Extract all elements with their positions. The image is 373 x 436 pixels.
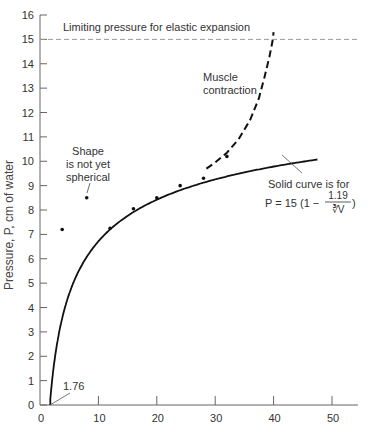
data-point <box>225 155 229 159</box>
muscle-contraction-curve <box>206 32 273 169</box>
start-value-annotation: 1.76 <box>63 380 84 392</box>
shape-annotation-line3: spherical <box>66 171 110 183</box>
data-point <box>108 226 112 230</box>
y-tick-label: 15 <box>22 33 34 45</box>
y-tick-label: 5 <box>28 277 34 289</box>
muscle-annotation-line2: contraction <box>203 84 257 96</box>
x-tick-label: 40 <box>268 412 280 424</box>
y-tick-label: 1 <box>28 375 34 387</box>
data-point <box>178 184 182 188</box>
y-tick-label: 8 <box>28 204 34 216</box>
y-tick-label: 11 <box>23 131 34 143</box>
data-point <box>85 196 89 200</box>
y-tick-label: 16 <box>22 9 34 21</box>
y-tick-label: 14 <box>22 58 34 70</box>
y-tick-label: 4 <box>28 302 34 314</box>
formula: P = 15 (1 − 1.19 ∛V ) <box>265 190 356 215</box>
y-tick-label: 0 <box>28 399 34 411</box>
formula-denominator: ∛V <box>332 204 345 215</box>
axes: 01234567891011121314151601020304050 <box>22 9 358 424</box>
shape-annotation-line2: is not yet <box>66 158 110 170</box>
solid-curve-annotation: Solid curve is for <box>268 178 350 190</box>
y-tick-label: 10 <box>22 155 34 167</box>
y-tick-label: 6 <box>28 253 34 265</box>
shape-leader-line <box>87 183 90 193</box>
formula-left: P = 15 (1 − <box>265 197 319 209</box>
shape-annotation-line1: Shape <box>72 145 104 157</box>
formula-right: ) <box>352 197 356 209</box>
formula-numerator: 1.19 <box>328 190 348 201</box>
x-tick-label: 50 <box>327 412 339 424</box>
x-tick-label: 30 <box>210 412 222 424</box>
data-point <box>202 177 206 181</box>
x-tick-label: 20 <box>152 412 164 424</box>
y-tick-label: 9 <box>28 180 34 192</box>
y-tick-label: 2 <box>28 350 34 362</box>
muscle-annotation-line1: Muscle <box>203 71 238 83</box>
start-leader-line <box>50 393 70 405</box>
y-tick-label: 7 <box>28 228 34 240</box>
limit-annotation: Limiting pressure for elastic expansion <box>63 21 250 33</box>
chart: 01234567891011121314151601020304050 Pres… <box>0 0 373 436</box>
series <box>40 32 358 405</box>
y-tick-label: 12 <box>22 107 34 119</box>
data-point <box>60 228 64 232</box>
data-point <box>155 196 159 200</box>
y-axis-label: Pressure, P, cm of water <box>2 160 16 290</box>
x-tick-label: 0 <box>38 412 44 424</box>
data-point <box>132 207 136 211</box>
x-tick-label: 10 <box>93 412 105 424</box>
y-tick-label: 13 <box>22 82 34 94</box>
y-tick-label: 3 <box>28 326 34 338</box>
